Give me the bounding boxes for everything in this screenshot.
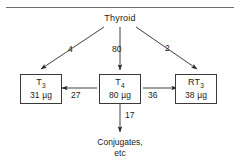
node-box-t3: T3 31 µg — [20, 74, 62, 104]
sink-node-conjugates: Conjugates, etc — [0, 137, 240, 158]
node-value-t4: 80 µg — [100, 91, 140, 100]
flow-label-thyroid-to-t4: 80 — [112, 44, 122, 54]
source-node-thyroid: Thyroid — [0, 13, 240, 23]
source-label: Thyroid — [104, 13, 135, 23]
sink-label-line1: Conjugates, — [0, 137, 240, 148]
figure-canvas: Thyroid T3 31 µg T4 80 µg RT3 38 µg 4 80… — [0, 0, 240, 165]
node-value-rt3: 38 µg — [176, 91, 216, 100]
node-label-rt3: RT3 — [176, 78, 216, 90]
sink-label-line2: etc — [0, 148, 240, 159]
flow-label-t4-to-conjugates: 17 — [125, 110, 135, 120]
flow-label-thyroid-to-t3: 4 — [68, 44, 73, 54]
flow-label-t4-to-t3: 27 — [71, 90, 81, 100]
flow-label-thyroid-to-rt3: 2 — [165, 43, 170, 53]
node-box-t4: T4 80 µg — [99, 74, 141, 104]
node-box-rt3: RT3 38 µg — [175, 74, 217, 104]
node-label-t3: T3 — [21, 78, 61, 90]
flow-label-t4-to-rt3: 36 — [148, 90, 158, 100]
node-value-t3: 31 µg — [21, 91, 61, 100]
node-label-t4: T4 — [100, 78, 140, 90]
